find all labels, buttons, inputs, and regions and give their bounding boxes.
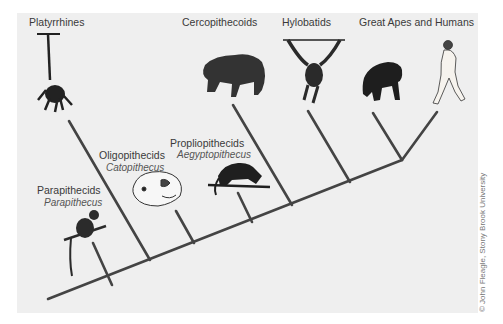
- genus-catopithecus: Catopithecus: [106, 162, 164, 174]
- baboon-icon: [203, 54, 265, 97]
- label-propliopithecids: Propliopithecids: [170, 137, 244, 149]
- branch-humans: [402, 112, 437, 160]
- branch-oligopithecids: [176, 211, 194, 243]
- branch-great-apes: [373, 113, 402, 160]
- chimpanzee-icon: [363, 62, 403, 101]
- human-icon: [433, 41, 465, 105]
- branch-propliopithecids: [238, 193, 252, 222]
- catopithecus-skull-icon: [133, 172, 182, 206]
- label-oligopithecids: Oligopithecids: [99, 149, 165, 161]
- photo-credit: © John Fleagle, Stony Brook University: [478, 173, 487, 312]
- label-cercopithecoids: Cercopithecoids: [182, 16, 257, 28]
- label-great-apes-humans: Great Apes and Humans: [359, 16, 474, 28]
- gibbon-icon: [283, 40, 345, 103]
- aegyptopithecus-icon: [208, 163, 270, 195]
- cladogram-lines: [0, 0, 503, 324]
- parapithecus-icon: [64, 210, 106, 276]
- genus-parapithecus: Parapithecus: [44, 197, 102, 209]
- label-parapithecids: Parapithecids: [37, 184, 101, 196]
- spider-monkey-icon: [37, 34, 72, 112]
- label-platyrrhines: Platyrrhines: [29, 16, 84, 28]
- branch-hylobatids: [308, 111, 350, 182]
- genus-aegyptopithecus: Aegyptopithecus: [177, 149, 251, 161]
- label-hylobatids: Hylobatids: [282, 16, 331, 28]
